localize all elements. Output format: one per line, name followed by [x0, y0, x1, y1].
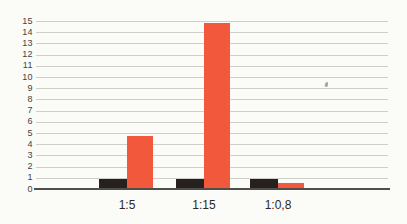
y-tick-label: 12	[6, 49, 33, 60]
x-category-label: 1:0,8	[265, 198, 292, 212]
bar-chart: 01234567891011121314151:51:151:0,8	[0, 0, 407, 224]
y-tick-label: 9	[6, 83, 33, 94]
y-tick-label: 2	[6, 161, 33, 172]
y-tick-label: 14	[6, 27, 33, 38]
x-axis-baseline	[34, 188, 390, 190]
y-tick-label: 3	[6, 150, 33, 161]
y-tick-label: 1	[6, 172, 33, 183]
x-category-label: 1:5	[119, 198, 136, 212]
y-tick-label: 15	[6, 16, 33, 27]
bar-orange-bars-2	[204, 23, 230, 190]
x-category-label: 1:15	[192, 198, 215, 212]
gridline-y15	[36, 21, 388, 22]
y-tick-label: 7	[6, 105, 33, 116]
plot-area: 01234567891011121314151:51:151:0,8	[0, 0, 407, 224]
y-tick-label: 10	[6, 72, 33, 83]
y-tick-label: 6	[6, 116, 33, 127]
y-tick-label: 13	[6, 38, 33, 49]
y-tick-label: 11	[6, 60, 33, 71]
y-tick-label: 0	[6, 184, 33, 195]
y-tick-label: 5	[6, 128, 33, 139]
y-tick-label: 8	[6, 94, 33, 105]
bar-orange-bars-1	[127, 136, 153, 190]
y-tick-label: 4	[6, 139, 33, 150]
